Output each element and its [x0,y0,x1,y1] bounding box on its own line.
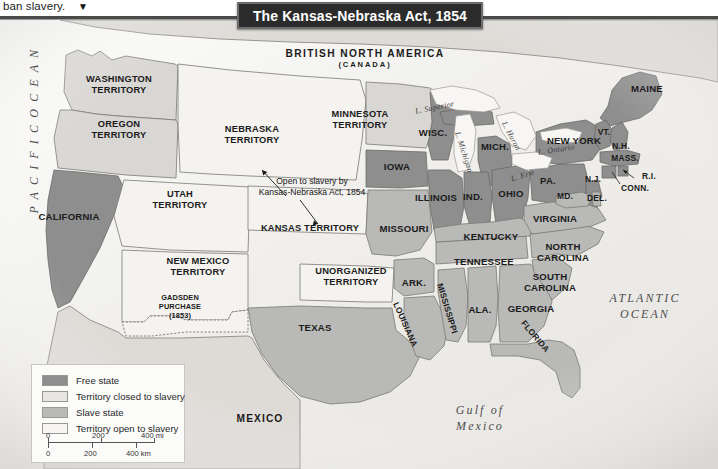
label-connecticut: CONN. [612,184,658,193]
label-michigan: MICH. [465,142,525,152]
label-missouri: MISSOURI [362,224,446,234]
caption-text: ban slavery. [3,0,65,12]
label-north-carolina-line2: CAROLINA [525,253,601,263]
label-oregon-territory-line2: TERRITORY [66,130,172,140]
scale-tick-right-km [136,443,137,448]
legend-item-slave-state: Slave state [42,406,123,419]
label-minnesota-territory-line1: MINNESOTA [313,109,407,119]
map-title-banner: The Kansas-Nebraska Act, 1854 [237,2,483,29]
map-legend: Free state Territory closed to slavery S… [31,364,185,463]
label-pennsylvania: PA. [528,176,568,186]
label-canada-line1: BRITISH NORTH AMERICA [275,48,455,59]
map-figure: BRITISH NORTH AMERICA (CANADA) P A C I F… [0,20,718,469]
map-title: The Kansas-Nebraska Act, 1854 [253,8,467,24]
label-maryland: MD. [548,192,582,201]
label-kansas-territory: KANSAS TERRITORY [250,223,370,233]
label-tennessee: TENNESSEE [437,257,531,267]
legend-label-territory-closed: Territory closed to slavery [76,391,185,402]
label-iowa: IOWA [362,162,432,172]
map-scale-bar: 0 200 400 mi 0 200 400 km [46,431,176,459]
label-utah-territory-line2: TERRITORY [130,200,230,210]
label-north-carolina-line1: NORTH [525,242,601,252]
legend-swatch-free-state [42,375,68,386]
label-texas: TEXAS [275,323,355,333]
label-nebraska-territory-line1: NEBRASKA [202,124,302,134]
label-gulf-of-mexico-line2: Mexico [430,420,530,433]
label-washington-territory-line1: WASHINGTON [64,74,174,84]
label-new-mexico-territory-line2: TERRITORY [140,267,256,277]
label-gadsden-purchase-line3: (1853) [143,312,217,320]
label-new-mexico-territory-line1: NEW MEXICO [140,256,256,266]
annotation-line1: Open to slavery by [237,176,387,186]
label-california: CALIFORNIA [24,212,114,222]
label-oregon-territory-line1: OREGON [66,119,172,129]
label-rhode-island: R.I. [634,172,664,181]
scale-km-tick-0: 0 [46,449,50,458]
label-washington-territory-line2: TERRITORY [64,85,174,95]
scale-tick-mid [101,438,102,443]
scale-tick-mid-km [92,443,93,448]
caption-arrow-icon: ▼ [78,1,88,12]
label-georgia: GEORGIA [494,304,568,314]
legend-label-free-state: Free state [76,375,119,386]
scale-tick-right [154,438,155,443]
label-atlantic-ocean-line2: OCEAN [595,308,695,321]
legend-label-slave-state: Slave state [76,407,123,418]
label-minnesota-territory-line2: TERRITORY [313,120,407,130]
label-virginia: VIRGINIA [513,214,597,224]
label-nebraska-territory-line2: TERRITORY [202,135,302,145]
label-atlantic-ocean-line1: ATLANTIC [595,292,695,305]
legend-item-free-state: Free state [42,374,119,387]
legend-swatch-territory-closed [42,391,68,402]
label-canada-line2: (CANADA) [305,61,425,69]
legend-item-territory-closed: Territory closed to slavery [42,390,185,403]
label-unorganized-territory-line1: UNORGANIZED [299,266,403,276]
label-massachusetts: MASS. [602,154,648,163]
label-ohio: OHIO [483,189,539,199]
scale-km-tick-400: 400 km [126,449,151,458]
legend-swatch-slave-state [42,407,68,418]
scale-miles-tick-400: 400 mi [141,431,164,440]
label-kentucky: KENTUCKY [445,232,537,242]
label-utah-territory-line1: UTAH [130,189,230,199]
label-delaware: DEL. [580,194,614,203]
label-south-carolina-line2: CAROLINA [512,283,588,293]
label-new-jersey: N.J. [575,175,611,184]
label-pacific-ocean: P A C I F I C O C E A N [28,93,41,213]
scale-tick-left-km [48,443,49,448]
scale-km-tick-200: 200 [84,449,97,458]
label-south-carolina-line1: SOUTH [512,272,588,282]
scale-miles-tick-200: 200 [92,431,105,440]
label-mexico: MEXICO [215,413,305,424]
label-wisconsin: WISC. [403,128,463,138]
annotation-line2: Kansas-Nebraska Act, 1854 [237,187,387,197]
label-vermont: VT. [589,128,619,137]
label-new-hampshire: N.H. [604,142,638,151]
label-gulf-of-mexico-line1: Gulf of [430,404,530,417]
label-maine: MAINE [618,84,676,94]
map-page: ban slavery. ▼ [0,0,718,469]
